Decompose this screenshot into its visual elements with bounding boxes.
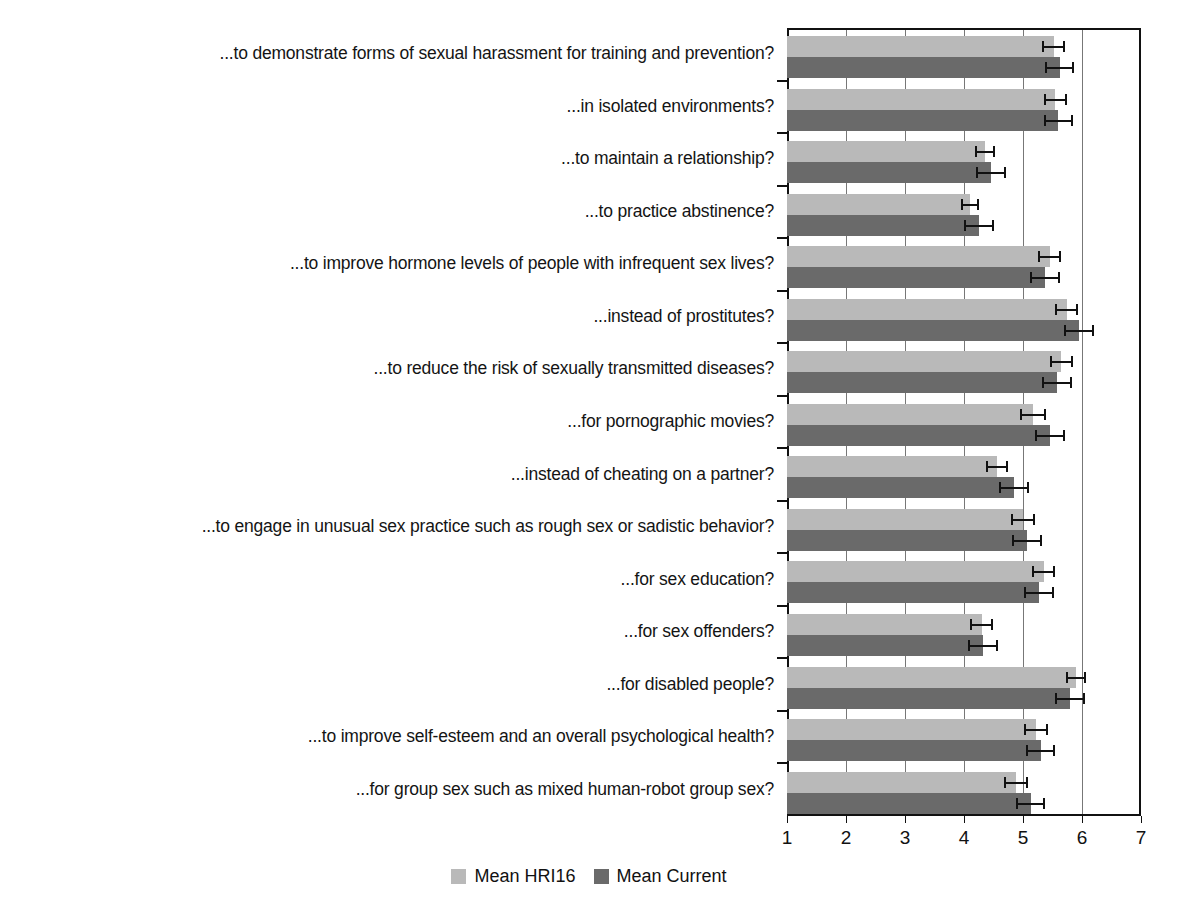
error-bar — [986, 461, 1007, 472]
bar-row: ...in isolated environments? — [0, 81, 1178, 134]
legend-swatch-icon — [451, 869, 466, 884]
bar-row: ...for sex offenders? — [0, 606, 1178, 659]
bar-row: ...for pornographic movies? — [0, 396, 1178, 449]
error-bar — [1055, 304, 1079, 315]
error-bar — [961, 199, 979, 210]
bar-row: ...to maintain a relationship? — [0, 133, 1178, 186]
bar-mean-hri16 — [787, 351, 1061, 372]
category-label: ...to engage in unusual sex practice suc… — [202, 516, 774, 536]
y-axis-tick — [777, 237, 787, 239]
error-bar-cap-left — [1004, 777, 1006, 788]
bar-mean-current — [787, 582, 1039, 603]
bar-mean-hri16 — [787, 667, 1076, 688]
error-bar-line — [1030, 277, 1060, 279]
bar-row: ...to improve hormone levels of people w… — [0, 238, 1178, 291]
category-label: ...for sex education? — [621, 569, 774, 589]
error-bar-line — [1055, 309, 1079, 311]
error-bar-line — [1066, 677, 1086, 679]
error-bar — [1026, 745, 1056, 756]
bar-mean-current — [787, 688, 1070, 709]
category-label: ...to improve self-esteem and an overall… — [308, 726, 774, 746]
bar-mean-current — [787, 320, 1079, 341]
bar-mean-hri16 — [787, 299, 1067, 320]
y-axis-tick — [777, 342, 787, 344]
error-bar — [968, 640, 998, 651]
error-bar-line — [1024, 592, 1054, 594]
category-label: ...in isolated environments? — [567, 96, 774, 116]
category-label: ...for disabled people? — [606, 674, 774, 694]
x-axis-label-6: 6 — [1062, 827, 1102, 849]
bar-group — [787, 343, 1141, 396]
error-bar-line — [1055, 698, 1085, 700]
error-bar-line — [1024, 729, 1048, 731]
x-axis-label-1: 1 — [767, 827, 807, 849]
error-bar — [1044, 94, 1068, 105]
error-bar — [1032, 566, 1056, 577]
bar-mean-hri16 — [787, 509, 1023, 530]
category-label: ...to maintain a relationship? — [561, 148, 774, 168]
error-bar — [1012, 535, 1042, 546]
bar-row: ...for sex education? — [0, 553, 1178, 606]
error-bar-line — [1012, 540, 1042, 542]
error-bar — [999, 482, 1029, 493]
bar-row: ...to engage in unusual sex practice suc… — [0, 501, 1178, 554]
error-bar-line — [975, 151, 995, 153]
legend-item-1[interactable]: Mean HRI16 — [451, 866, 575, 887]
error-bar-cap-left — [970, 619, 972, 630]
bar-mean-hri16 — [787, 614, 982, 635]
error-bar — [1044, 115, 1074, 126]
error-bar-cap-right — [1033, 514, 1035, 525]
x-axis-label-5: 5 — [1003, 827, 1043, 849]
x-axis-tick-3 — [905, 816, 906, 823]
bar-mean-hri16 — [787, 194, 970, 215]
category-label: ...to reduce the risk of sexually transm… — [374, 358, 774, 378]
error-bar — [1042, 377, 1072, 388]
error-bar — [1064, 325, 1094, 336]
bar-row: ...for group sex such as mixed human-rob… — [0, 763, 1178, 816]
error-bar-line — [1038, 256, 1062, 258]
x-axis-label-7: 7 — [1121, 827, 1161, 849]
error-bar — [1042, 41, 1066, 52]
error-bar-cap-left — [1024, 587, 1026, 598]
error-bar-cap-left — [1030, 272, 1032, 283]
legend-item-2[interactable]: Mean Current — [594, 866, 727, 887]
bar-mean-current — [787, 162, 991, 183]
error-bar — [1024, 587, 1054, 598]
error-bar-line — [999, 487, 1029, 489]
y-axis-tick — [777, 447, 787, 449]
error-bar-line — [1050, 361, 1074, 363]
error-bar-cap-right — [996, 640, 998, 651]
bar-group — [787, 658, 1141, 711]
category-label: ...to demonstrate forms of sexual harass… — [220, 43, 774, 63]
error-bar-cap-left — [1038, 251, 1040, 262]
error-bar — [964, 220, 994, 231]
error-bar-line — [1044, 99, 1068, 101]
category-label: ...for pornographic movies? — [567, 411, 774, 431]
bar-mean-hri16 — [787, 141, 985, 162]
error-bar-cap-left — [968, 640, 970, 651]
error-bar-line — [1045, 67, 1075, 69]
bar-mean-hri16 — [787, 404, 1033, 425]
error-bar-cap-left — [1055, 693, 1057, 704]
bar-mean-current — [787, 215, 979, 236]
error-bar-cap-left — [975, 146, 977, 157]
bar-mean-current — [787, 57, 1060, 78]
error-bar-cap-right — [1092, 325, 1094, 336]
error-bar-cap-left — [1044, 94, 1046, 105]
error-bar-cap-left — [1032, 566, 1034, 577]
bar-row: ...for disabled people? — [0, 658, 1178, 711]
y-axis-tick — [777, 605, 787, 607]
error-bar-cap-left — [964, 220, 966, 231]
bar-mean-current — [787, 793, 1031, 814]
error-bar-cap-left — [1012, 535, 1014, 546]
error-bar-cap-right — [977, 199, 979, 210]
error-bar — [1024, 724, 1048, 735]
error-bar — [970, 619, 994, 630]
legend-swatch-icon — [594, 869, 609, 884]
error-bar-cap-right — [1026, 777, 1028, 788]
y-axis-tick — [777, 500, 787, 502]
error-bar-line — [1064, 330, 1094, 332]
x-axis-tick-2 — [846, 816, 847, 823]
bar-group — [787, 133, 1141, 186]
x-axis: 1234567 — [787, 816, 1141, 817]
